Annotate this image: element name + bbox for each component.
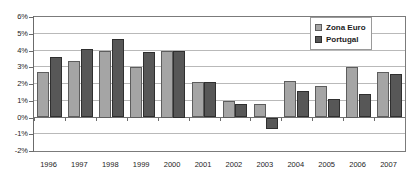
- bar: [254, 104, 266, 117]
- y-axis-tick-mark: [29, 17, 33, 18]
- x-axis-tick-mark: [281, 118, 282, 121]
- legend-item-zona-euro: Zona Euro: [315, 22, 366, 33]
- bar: [173, 51, 185, 118]
- bar: [377, 72, 389, 117]
- y-axis-tick-label: 0%: [0, 114, 28, 122]
- y-axis-tick-mark: [29, 118, 33, 119]
- x-axis-tick-mark: [34, 118, 35, 121]
- y-axis-tick-label: 5%: [0, 30, 28, 38]
- bar: [284, 81, 296, 118]
- bar: [143, 52, 155, 117]
- x-axis-tick-label: 2005: [311, 160, 343, 169]
- x-axis-tick-label: 1997: [63, 160, 95, 169]
- y-axis-tick-label: 3%: [0, 63, 28, 71]
- bar: [50, 57, 62, 117]
- x-axis-tick-mark: [158, 118, 159, 121]
- bar: [359, 94, 371, 117]
- y-axis-tick-mark: [29, 67, 33, 68]
- y-axis-tick-mark: [29, 134, 33, 135]
- y-axis-tick-label: 6%: [0, 13, 28, 21]
- legend-item-portugal: Portugal: [315, 34, 366, 45]
- x-axis-tick-mark: [127, 118, 128, 121]
- bar: [235, 104, 247, 117]
- x-axis-tick-mark: [250, 118, 251, 121]
- bar: [130, 67, 142, 117]
- bar: [81, 49, 93, 118]
- x-axis-tick-mark: [312, 118, 313, 121]
- bar: [192, 82, 204, 117]
- x-axis-tick-mark: [189, 118, 190, 121]
- x-axis-tick-label: 2004: [280, 160, 312, 169]
- y-axis-tick-mark: [29, 84, 33, 85]
- x-axis-tick-label: 1999: [125, 160, 157, 169]
- bar: [346, 67, 358, 117]
- bar: [204, 82, 216, 117]
- y-axis-tick-mark: [29, 101, 33, 102]
- light-gray-swatch-icon: [315, 24, 322, 31]
- x-axis-tick-mark: [96, 118, 97, 121]
- x-axis-tick-mark: [220, 118, 221, 121]
- bar: [390, 74, 402, 118]
- bar: [99, 51, 111, 118]
- x-axis-tick-mark: [65, 118, 66, 121]
- bar: [223, 101, 235, 118]
- bar: [297, 91, 309, 118]
- y-axis-tick-mark: [29, 151, 33, 152]
- y-axis-tick-labels: 6%5%4%3%2%1%0%-1%-2%: [0, 0, 31, 181]
- y-axis-tick-label: 4%: [0, 47, 28, 55]
- bar: [328, 99, 340, 117]
- dark-gray-swatch-icon: [315, 36, 322, 43]
- bar: [37, 72, 49, 117]
- x-axis-tick-label: 2000: [156, 160, 188, 169]
- x-axis-tick-label: 2001: [187, 160, 219, 169]
- bar: [315, 86, 327, 118]
- y-axis-tick-label: 2%: [0, 80, 28, 88]
- x-axis-tick-mark: [343, 118, 344, 121]
- x-axis-tick-mark: [374, 118, 375, 121]
- x-axis-tick-label: 2006: [342, 160, 374, 169]
- legend-label-zona-euro: Zona Euro: [326, 23, 366, 32]
- y-axis-tick-label: 1%: [0, 97, 28, 105]
- x-axis-tick-label: 2007: [373, 160, 405, 169]
- legend-label-portugal: Portugal: [326, 35, 358, 44]
- y-axis-tick-label: -1%: [0, 130, 28, 138]
- bar-chart: 6%5%4%3%2%1%0%-1%-2% 1996199719981999200…: [0, 0, 416, 181]
- x-axis-tick-label: 2003: [249, 160, 281, 169]
- x-axis-tick-label: 1998: [94, 160, 126, 169]
- x-axis-tick-label: 2002: [218, 160, 250, 169]
- bar: [68, 61, 80, 118]
- chart-legend: Zona Euro Portugal: [310, 17, 372, 50]
- x-axis-tick-label: 1996: [32, 160, 64, 169]
- y-axis-tick-label: -2%: [0, 147, 28, 155]
- y-axis-tick-mark: [29, 51, 33, 52]
- bar: [161, 51, 173, 118]
- y-axis-tick-mark: [29, 34, 33, 35]
- bar: [112, 39, 124, 118]
- bar: [266, 118, 278, 130]
- x-axis-tick-labels: 1996199719981999200020012002200320042005…: [33, 160, 406, 174]
